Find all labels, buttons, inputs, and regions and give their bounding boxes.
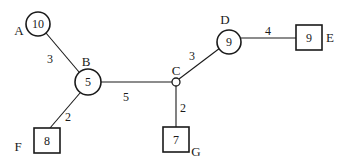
node-g: 7 G <box>163 127 201 159</box>
node-d-value: 9 <box>226 35 232 49</box>
node-b: 5 B <box>75 54 101 95</box>
node-g-value: 7 <box>173 133 179 147</box>
node-e-value: 9 <box>306 31 312 45</box>
edge-weight-c-g: 2 <box>180 101 186 115</box>
node-c-label: C <box>172 63 181 78</box>
node-d: 9 D <box>217 12 241 54</box>
node-e-label: E <box>326 30 334 45</box>
node-f-value: 8 <box>44 134 50 148</box>
node-a: 10 A <box>14 12 50 38</box>
edge-weight-c-d: 3 <box>189 49 195 63</box>
edge-weight-b-c: 5 <box>123 90 129 104</box>
node-f: 8 F <box>14 128 60 154</box>
graph-diagram: 3 5 3 4 2 2 10 A 5 B C 9 D <box>0 0 346 167</box>
node-c: C <box>172 63 181 86</box>
edge-weight-a-b: 3 <box>47 52 53 66</box>
node-b-value: 5 <box>85 75 91 89</box>
node-a-value: 10 <box>32 17 44 31</box>
node-d-label: D <box>220 12 229 27</box>
node-e: 9 E <box>296 25 334 50</box>
node-b-label: B <box>82 54 91 69</box>
node-a-label: A <box>14 23 24 38</box>
node-g-label: G <box>191 144 200 159</box>
edge-weight-b-f: 2 <box>65 110 71 124</box>
node-f-label: F <box>14 139 21 154</box>
edge-c-d <box>179 48 220 79</box>
edge-weight-d-e: 4 <box>265 24 271 38</box>
